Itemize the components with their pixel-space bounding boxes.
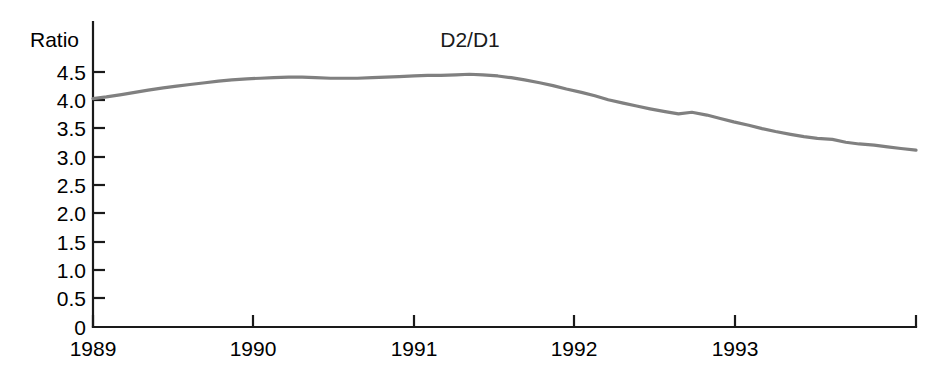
y-tick-label-0: 0 — [74, 316, 86, 339]
y-tick-label-2.0: 2.0 — [57, 202, 86, 225]
y-tick-labels: 0 0.5 1.0 1.5 2.0 2.5 3.0 3.5 4.0 4.5 — [57, 61, 86, 339]
y-tick-label-3.5: 3.5 — [57, 117, 86, 140]
x-tick-label-1992: 1992 — [551, 337, 598, 360]
y-tick-label-3.0: 3.0 — [57, 146, 86, 169]
chart-title: D2/D1 — [440, 28, 500, 51]
x-tick-label-1989: 1989 — [70, 337, 117, 360]
y-axis-label: Ratio — [30, 28, 79, 51]
data-series-line — [93, 74, 916, 150]
y-tick-label-2.5: 2.5 — [57, 174, 86, 197]
y-tick-label-1.5: 1.5 — [57, 231, 86, 254]
x-tick-label-1991: 1991 — [391, 337, 438, 360]
x-tick-label-1990: 1990 — [230, 337, 277, 360]
x-tick-marks — [93, 315, 735, 327]
y-tick-label-4.0: 4.0 — [57, 89, 86, 112]
chart-container: Ratio D2/D1 0 0.5 1.0 1.5 2.0 2 — [0, 0, 944, 383]
y-tick-label-4.5: 4.5 — [57, 61, 86, 84]
x-tick-labels: 1989 1990 1991 1992 1993 — [70, 337, 759, 360]
y-tick-label-0.5: 0.5 — [57, 287, 86, 310]
line-chart: Ratio D2/D1 0 0.5 1.0 1.5 2.0 2 — [0, 0, 944, 383]
y-tick-label-1.0: 1.0 — [57, 259, 86, 282]
x-tick-label-1993: 1993 — [712, 337, 759, 360]
y-tick-marks — [93, 72, 105, 298]
